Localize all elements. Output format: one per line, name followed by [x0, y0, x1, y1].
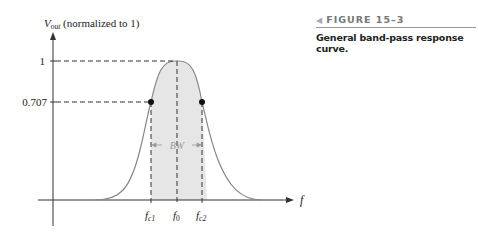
figure-description: General band-pass response curve.	[316, 32, 478, 54]
bw-label: BW	[170, 140, 186, 151]
figure-label: ◀FIGURE 15–3	[316, 14, 476, 28]
triangle-left-icon: ◀	[316, 16, 323, 25]
figure-caption-block: ◀FIGURE 15–3 General band-pass response …	[316, 14, 478, 54]
bandwidth-shade	[151, 61, 207, 200]
y-tick-0707: 0.707	[22, 96, 47, 108]
x-axis-label: f	[300, 193, 305, 207]
y-axis-label: Vout (normalized to 1)	[44, 17, 140, 31]
y-tick-1: 1	[40, 55, 46, 67]
x-axis-arrow-icon	[286, 197, 294, 203]
x-tick-f0: f0	[173, 209, 180, 223]
x-tick-fc1: fc1	[145, 209, 155, 223]
point-fc2	[199, 99, 205, 105]
x-tick-fc2: fc2	[196, 209, 206, 223]
point-fc1	[148, 99, 154, 105]
figure-number: FIGURE 15–3	[326, 14, 404, 25]
y-axis-arrow-icon	[50, 32, 56, 40]
